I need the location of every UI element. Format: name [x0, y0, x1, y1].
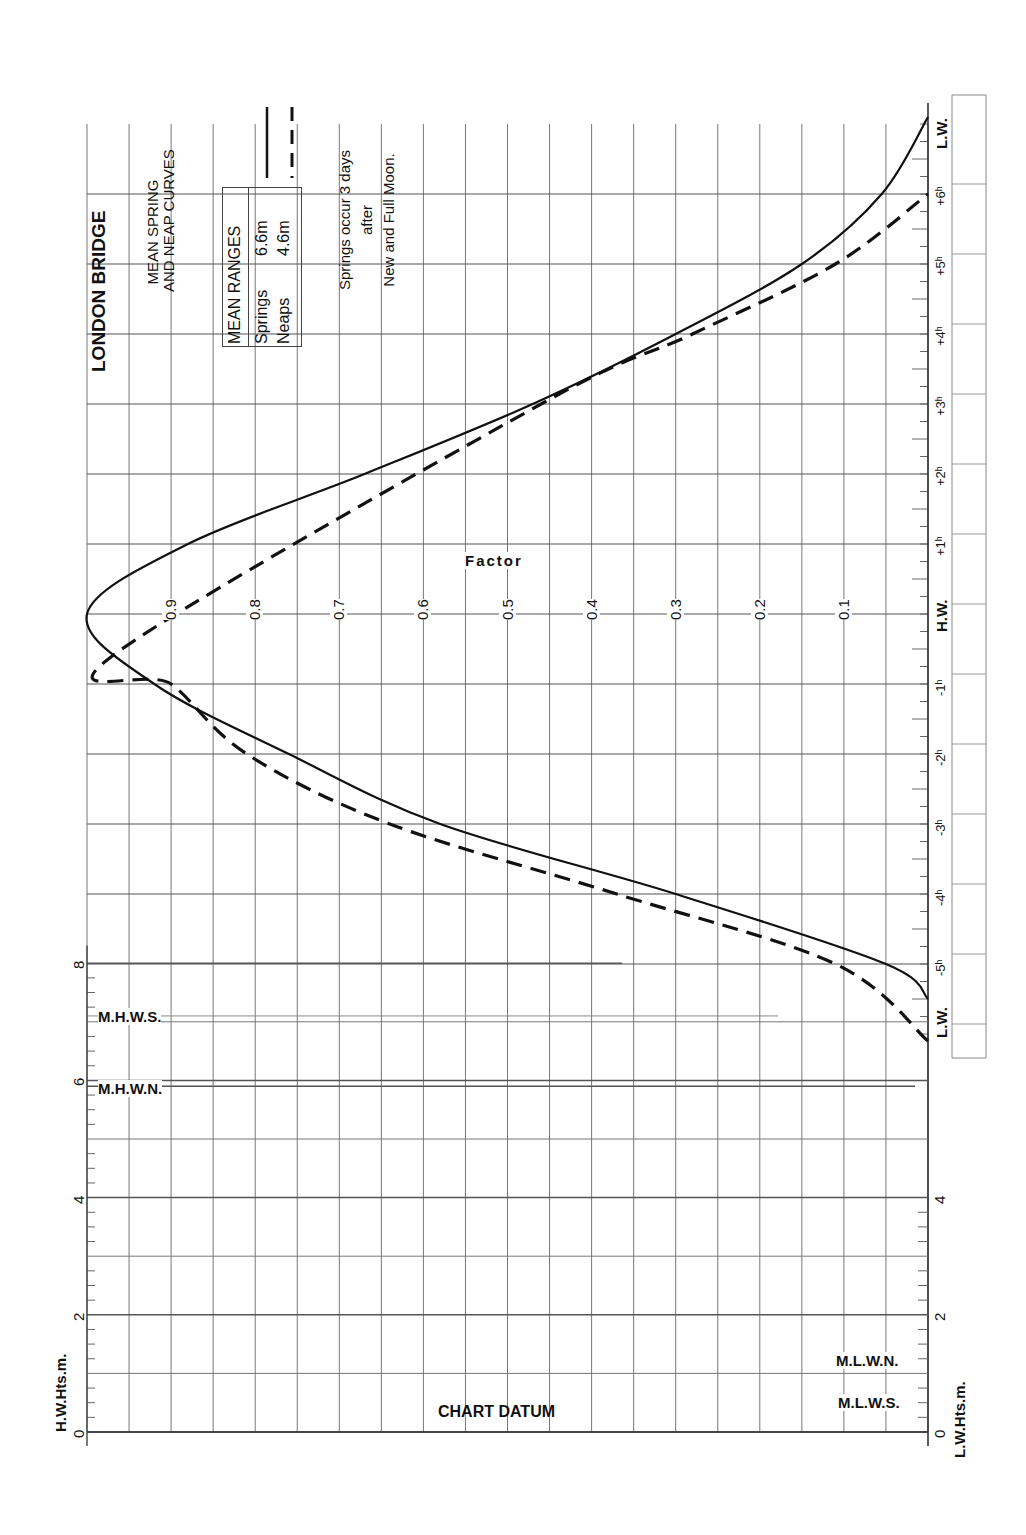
hw-height-tick-label: 6 — [70, 1078, 87, 1086]
neaps-range-label: Neaps — [275, 298, 293, 344]
time-axis-label: -1ʰ — [933, 679, 948, 696]
time-axis-label: -5ʰ — [933, 959, 948, 976]
springs-range-value: 6.6m — [253, 220, 271, 256]
legend-line-samples — [267, 107, 292, 178]
mlws-label: M.L.W.S. — [838, 1394, 900, 1411]
lw-heights-axis-title: L.W.Hts.m. — [951, 1381, 968, 1458]
time-axis-label: +3ʰ — [933, 396, 948, 416]
subtitle-line-2: AND NEAP CURVES — [161, 172, 177, 292]
factor-tick-label: 0.5 — [499, 599, 516, 620]
hw-height-tick-label: 4 — [70, 1195, 87, 1203]
hw-height-tick-label: 8 — [70, 961, 87, 969]
mhws-label: M.H.W.S. — [98, 1008, 161, 1025]
hw-height-tick-label: 2 — [70, 1312, 87, 1320]
mlwn-label: M.L.W.N. — [836, 1352, 899, 1369]
springs-range-label: Springs — [253, 290, 271, 344]
note-line-1: Springs occur 3 days — [334, 80, 356, 360]
factor-tick-label: 0.8 — [246, 599, 263, 620]
time-axis-label: -4ʰ — [933, 889, 948, 906]
time-axis-label: +2ʰ — [933, 466, 948, 486]
time-axis-label: +5ʰ — [933, 256, 948, 276]
chart-datum-label: CHART DATUM — [438, 1403, 555, 1421]
chart-title: LONDON BRIDGE — [88, 211, 110, 373]
time-axis-label: +4ʰ — [933, 326, 948, 346]
neaps-range-value: 4.6m — [275, 220, 293, 256]
time-axis-label: L.W. — [933, 118, 950, 149]
note-line-3: New and Full Moon. — [378, 80, 400, 360]
time-axis-label: H.W. — [933, 600, 950, 633]
factor-tick-label: 0.9 — [162, 599, 179, 620]
time-axis-label: -3ʰ — [933, 819, 948, 836]
note-line-2: after — [356, 80, 378, 360]
factor-tick-label: 0.2 — [751, 599, 768, 620]
time-axis-label: L.W. — [933, 1007, 950, 1038]
factor-tick-label: 0.6 — [414, 599, 431, 620]
lw-height-tick-label: 0 — [931, 1430, 948, 1438]
hw-height-tick-label: 0 — [70, 1430, 87, 1438]
time-axis-label: +1ʰ — [933, 536, 948, 556]
factor-tick-label: 0.3 — [667, 599, 684, 620]
factor-tick-label: 0.7 — [330, 599, 347, 620]
factor-tick-label: 0.1 — [835, 599, 852, 620]
mhwn-label: M.H.W.N. — [98, 1080, 162, 1097]
factor-axis-title: Factor — [462, 552, 526, 569]
springs-note: Springs occur 3 days after New and Full … — [334, 80, 400, 360]
subtitle-line-1: MEAN SPRING — [145, 172, 161, 292]
mean-ranges-title: MEAN RANGES — [226, 226, 244, 344]
time-axis-label: -2ʰ — [933, 749, 948, 766]
chart-subtitle: MEAN SPRING AND NEAP CURVES — [145, 172, 177, 292]
hw-heights-axis-title: H.W.Hts.m. — [52, 1354, 69, 1432]
lw-height-tick-label: 4 — [931, 1195, 948, 1203]
time-axis-label: +6ʰ — [933, 186, 948, 206]
lw-height-tick-label: 2 — [931, 1312, 948, 1320]
factor-tick-label: 0.4 — [583, 599, 600, 620]
